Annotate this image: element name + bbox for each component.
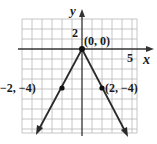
grid <box>22 19 137 133</box>
point-left <box>59 85 64 90</box>
right-point-label: (2, −4) <box>105 81 138 95</box>
y-axis <box>79 9 85 136</box>
point-right <box>99 85 104 90</box>
y-axis-label: y <box>68 3 76 18</box>
y-tick-label: 2 <box>72 26 78 40</box>
y-axis-arrow-icon <box>79 9 85 17</box>
graph: y x 5 2 (0, 0) −2, −4) (2, −4) <box>0 0 157 144</box>
x-axis-label: x <box>142 52 150 67</box>
left-point-label: −2, −4) <box>0 81 36 95</box>
origin-point-label: (0, 0) <box>84 34 110 48</box>
x-tick-label: 5 <box>127 51 133 65</box>
